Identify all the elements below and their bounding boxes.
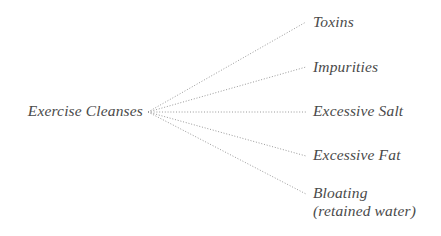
leaf-label-text: Toxins xyxy=(313,13,354,30)
leaf-label-text: Excessive Fat xyxy=(313,146,401,163)
root-node-label: Exercise Cleanses xyxy=(28,102,143,120)
leaf-sublabel-text: (retained water) xyxy=(313,202,416,220)
connector-line xyxy=(148,112,306,194)
leaf-node-excessive-fat: Excessive Fat xyxy=(313,146,401,164)
leaf-label-text: Impurities xyxy=(313,58,378,75)
leaf-label-text: Bloating xyxy=(313,184,368,201)
leaf-node-excessive-salt: Excessive Salt xyxy=(313,102,403,120)
leaf-label-text: Excessive Salt xyxy=(313,102,403,119)
leaf-node-toxins: Toxins xyxy=(313,13,354,31)
connector-line xyxy=(148,67,306,112)
diagram-canvas: Exercise Cleanses Toxins Impurities Exce… xyxy=(0,0,441,236)
connector-line xyxy=(148,112,306,156)
connector-line xyxy=(148,22,306,112)
leaf-node-bloating: Bloating (retained water) xyxy=(313,184,416,221)
leaf-node-impurities: Impurities xyxy=(313,58,378,76)
